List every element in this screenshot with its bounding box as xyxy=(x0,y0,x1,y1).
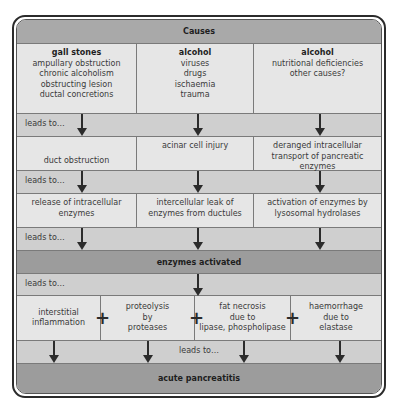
effect-cell-haemorrhage: haemorrhage due to elastase xyxy=(291,296,381,340)
plus-icon: + xyxy=(285,309,300,327)
leads-to-label: leads to… xyxy=(25,176,65,185)
flowchart-frame: Causes gall stones ampullary obstruction… xyxy=(12,15,386,398)
effect-line: due to xyxy=(198,313,287,324)
cause-title: gall stones xyxy=(20,48,133,59)
release-text: intercellular leak of enzymes from ductu… xyxy=(140,198,250,219)
cause-title: alcohol xyxy=(257,48,378,59)
cause-item: chronic alcoholism xyxy=(20,69,133,80)
enzymes-activated-text: enzymes activated xyxy=(157,258,242,267)
plus-icon: + xyxy=(189,309,204,327)
effect-line: by xyxy=(104,313,191,324)
effect-line: lipase, phospholipase xyxy=(198,323,287,334)
cause-title: alcohol xyxy=(140,48,250,59)
arrow-down-icon xyxy=(243,341,245,361)
release-row: release of intracellular enzymes interce… xyxy=(17,194,381,228)
effect-line: proteolysis xyxy=(104,302,191,313)
cause-item: obstructing lesion xyxy=(20,80,133,91)
leads-to-label: leads to… xyxy=(17,346,381,355)
effect-cell-inflammation: interstitial inflammation xyxy=(17,296,101,340)
enzymes-activated-bar: enzymes activated xyxy=(17,251,381,274)
mechanism-cell: duct obstruction xyxy=(17,137,137,170)
arrow-down-icon xyxy=(147,341,149,361)
arrow-down-icon xyxy=(197,274,199,294)
leads-to-label: leads to… xyxy=(25,279,65,288)
arrow-down-icon xyxy=(81,114,83,134)
leads-to-label: leads to… xyxy=(25,233,65,242)
flowchart-body: Causes gall stones ampullary obstruction… xyxy=(16,19,382,394)
arrow-down-icon xyxy=(197,228,199,248)
cause-item: trauma xyxy=(140,90,250,101)
arrow-down-icon xyxy=(319,114,321,134)
effect-line: inflammation xyxy=(20,318,97,329)
leads-to-row-5: leads to… xyxy=(17,341,381,364)
cause-item: other causes? xyxy=(257,69,378,80)
arrow-down-icon xyxy=(81,171,83,191)
effect-cell-proteolysis: proteolysis by proteases xyxy=(101,296,195,340)
effect-line: proteases xyxy=(104,323,191,334)
plus-icon: + xyxy=(95,309,110,327)
release-cell: activation of enzymes by lysosomal hydro… xyxy=(254,194,381,227)
arrow-down-icon xyxy=(197,171,199,191)
arrow-down-icon xyxy=(319,171,321,191)
outcome-text: acute pancreatitis xyxy=(158,374,240,383)
release-text: release of intracellular enzymes xyxy=(20,198,133,219)
cause-column-gallstones: gall stones ampullary obstruction chroni… xyxy=(17,44,137,113)
leads-to-label: leads to… xyxy=(25,119,65,128)
causes-title: Causes xyxy=(183,27,215,36)
arrow-down-icon xyxy=(81,228,83,248)
mechanism-cell: deranged intracellular transport of panc… xyxy=(254,137,381,170)
causes-row: gall stones ampullary obstruction chroni… xyxy=(17,44,381,114)
cause-item: ampullary obstruction xyxy=(20,59,133,70)
mechanism-cell: acinar cell injury xyxy=(137,137,254,170)
effect-line: due to xyxy=(294,313,378,324)
mechanisms-row: duct obstruction acinar cell injury dera… xyxy=(17,137,381,171)
cause-item: nutritional deficiencies xyxy=(257,59,378,70)
effect-line: fat necrosis xyxy=(198,302,287,313)
effect-line: interstitial xyxy=(20,308,97,319)
cause-item: ischaemia xyxy=(140,80,250,91)
cause-item: ductal concretions xyxy=(20,90,133,101)
cause-item: drugs xyxy=(140,69,250,80)
cause-column-alcohol: alcohol viruses drugs ischaemia trauma xyxy=(137,44,254,113)
outcome-bar: acute pancreatitis xyxy=(17,364,381,393)
mechanism-text: duct obstruction xyxy=(20,156,133,167)
release-cell: intercellular leak of enzymes from ductu… xyxy=(137,194,254,227)
cause-item: viruses xyxy=(140,59,250,70)
arrow-down-icon xyxy=(53,341,55,361)
arrow-down-icon xyxy=(339,341,341,361)
causes-header: Causes xyxy=(17,20,381,44)
mechanism-text: acinar cell injury xyxy=(140,141,250,152)
release-cell: release of intracellular enzymes xyxy=(17,194,137,227)
release-text: activation of enzymes by lysosomal hydro… xyxy=(257,198,378,219)
effect-cell-fat-necrosis: fat necrosis due to lipase, phospholipas… xyxy=(195,296,291,340)
effect-line: haemorrhage xyxy=(294,302,378,313)
effect-line: elastase xyxy=(294,323,378,334)
arrow-down-icon xyxy=(197,114,199,134)
arrow-down-icon xyxy=(319,228,321,248)
mechanism-text: deranged intracellular transport of panc… xyxy=(257,141,378,173)
cause-column-other: alcohol nutritional deficiencies other c… xyxy=(254,44,381,113)
